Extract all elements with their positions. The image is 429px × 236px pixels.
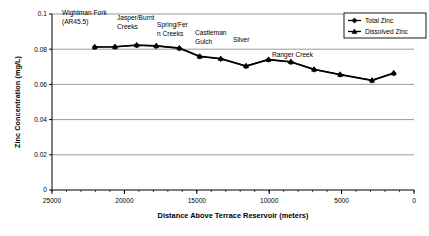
x-axis-tick-label: 20000 <box>115 197 134 204</box>
x-axis-tick-label: 5000 <box>334 197 349 204</box>
x-axis-tick-label: 25000 <box>43 197 62 204</box>
x-axis-tick-label: 10000 <box>260 197 279 204</box>
y-axis-tick-label: 0 <box>43 186 47 193</box>
annotation-label-wightman-fork: Wightman Fork <box>62 9 107 17</box>
legend-label-total-zinc: Total Zinc <box>365 17 394 24</box>
annotation-label-castleman-gulch: Gulch <box>195 38 213 45</box>
x-axis-title: Distance Above Terrace Reservoir (meters… <box>158 211 309 220</box>
series-line-dissolved-zinc <box>95 45 394 80</box>
annotation-label-wightman-fork: (AR45.5) <box>62 18 88 26</box>
y-axis-tick-label: 0.06 <box>34 81 47 88</box>
annotation-label-jasper-burnt-creeks: Creeks <box>117 23 139 30</box>
annotation-label-spring-fern-creeks: n Creeks <box>157 30 184 37</box>
series-line-total-zinc <box>95 45 394 80</box>
annotation-label-castleman-gulch: Castleman <box>195 29 227 36</box>
annotation-label-spring-fern-creeks: Spring/Fer <box>157 21 189 29</box>
annotation-label-jasper-burnt-creeks: Jasper/Burnt <box>117 14 155 22</box>
y-axis-tick-label: 0.02 <box>34 151 47 158</box>
chart-canvas: 00.020.040.060.080.125000200001500010000… <box>0 0 429 236</box>
annotation-label-silver: Silver <box>233 36 250 43</box>
y-axis-tick-label: 0.08 <box>34 46 47 53</box>
zinc-concentration-chart: 00.020.040.060.080.125000200001500010000… <box>0 0 429 236</box>
annotation-label-ranger-creek: Ranger Creek <box>272 51 314 59</box>
legend-label-dissolved-zinc: Dissolved Zinc <box>365 28 409 35</box>
x-axis-tick-label: 15000 <box>188 197 207 204</box>
y-axis-tick-label: 0.04 <box>34 116 47 123</box>
x-axis-tick-label: 0 <box>412 197 416 204</box>
y-axis-tick-label: 0.1 <box>38 10 47 17</box>
y-axis-title: Zinc Concentration (mg/L) <box>13 56 22 148</box>
